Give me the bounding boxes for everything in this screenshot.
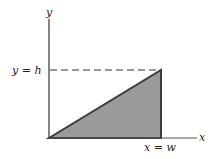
y-axis-label: y (45, 6, 53, 19)
x-axis-label: x (199, 131, 206, 144)
width-label: x = w (144, 141, 176, 154)
shaded-triangle (49, 70, 161, 138)
diagram-canvas: y x y = h x = w (0, 0, 214, 159)
height-label: y = h (11, 64, 42, 77)
